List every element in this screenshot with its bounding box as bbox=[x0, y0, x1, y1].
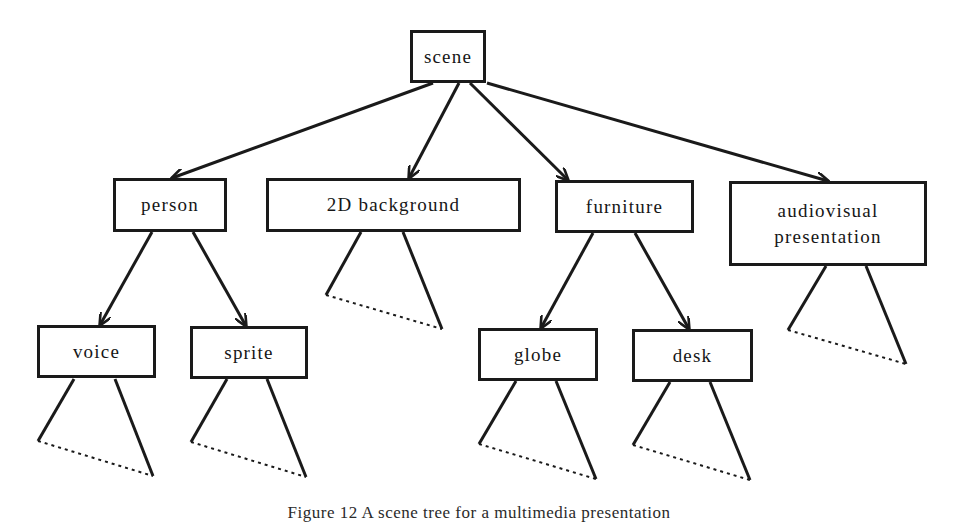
node-label: sprite bbox=[224, 340, 273, 366]
node-audiovisual-presentation: audiovisual presentation bbox=[729, 181, 927, 266]
edge-scene-to-background bbox=[409, 83, 459, 178]
node-furniture: furniture bbox=[555, 180, 694, 233]
edge-scene-to-audiovisual bbox=[487, 83, 828, 181]
edge-furniture-to-desk bbox=[635, 233, 689, 329]
subtree-globe bbox=[479, 381, 596, 479]
figure-caption: Figure 12 A scene tree for a multimedia … bbox=[0, 503, 958, 523]
subtree-sprite bbox=[191, 379, 306, 477]
subtree-background bbox=[326, 232, 442, 329]
node-2d-background: 2D background bbox=[266, 178, 521, 232]
node-label: desk bbox=[673, 343, 713, 369]
node-scene: scene bbox=[410, 30, 486, 83]
node-label: person bbox=[141, 192, 199, 218]
node-label: furniture bbox=[586, 194, 663, 220]
edge-furniture-to-globe bbox=[541, 233, 593, 328]
node-person: person bbox=[113, 178, 227, 232]
edge-scene-to-person bbox=[172, 83, 433, 178]
edge-person-to-sprite bbox=[193, 232, 246, 326]
node-label: audiovisual presentation bbox=[774, 198, 881, 250]
node-voice: voice bbox=[37, 325, 156, 378]
node-sprite: sprite bbox=[190, 326, 308, 379]
subtree-audiovisual bbox=[788, 266, 906, 364]
subtree-voice bbox=[38, 379, 153, 476]
node-globe: globe bbox=[478, 328, 598, 381]
edge-person-to-voice bbox=[100, 232, 152, 325]
edge-scene-to-furniture bbox=[470, 83, 568, 180]
node-desk: desk bbox=[632, 329, 753, 382]
node-label: globe bbox=[514, 342, 562, 368]
node-label: scene bbox=[424, 44, 472, 70]
subtree-desk bbox=[633, 382, 750, 480]
node-label: 2D background bbox=[327, 192, 460, 218]
node-label: voice bbox=[73, 339, 120, 365]
subtree-triangles bbox=[38, 232, 906, 480]
